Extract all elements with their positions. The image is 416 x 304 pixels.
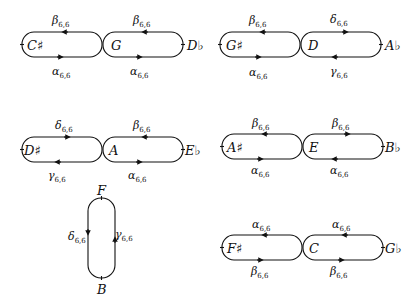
edge-label: δ6,6 bbox=[55, 120, 73, 134]
edge-label: β6,6 bbox=[252, 118, 270, 132]
edge-label: α6,6 bbox=[252, 219, 271, 233]
edge-label: γ6,6 bbox=[330, 66, 348, 80]
edge-label: β6,6 bbox=[330, 266, 348, 280]
node-right: G♭ bbox=[385, 242, 402, 255]
loop-vertical-d5 bbox=[88, 196, 115, 280]
node-right: B♭ bbox=[385, 141, 401, 154]
edge-label: α6,6 bbox=[251, 165, 270, 179]
node-center: D bbox=[308, 39, 318, 52]
node-bottom: B bbox=[97, 283, 107, 296]
node-left: D♯ bbox=[24, 144, 41, 157]
edge-label: β6,6 bbox=[52, 15, 70, 29]
edge-label: α6,6 bbox=[52, 66, 71, 80]
loop-pair-d4 bbox=[220, 134, 385, 159]
node-right: D♭ bbox=[187, 39, 204, 52]
node-left: A♯ bbox=[227, 141, 243, 154]
loop-pair-d3 bbox=[20, 137, 185, 162]
edge-label: δ6,6 bbox=[68, 231, 86, 245]
node-center: E bbox=[309, 141, 319, 154]
node-left: G♯ bbox=[226, 39, 243, 52]
edge-label: β6,6 bbox=[249, 15, 267, 29]
node-center: G bbox=[111, 39, 121, 52]
node-center: C bbox=[309, 242, 319, 255]
edge-label: α6,6 bbox=[332, 219, 351, 233]
node-top: F bbox=[97, 184, 106, 197]
edge-label: β6,6 bbox=[133, 15, 151, 29]
edge-label: β6,6 bbox=[251, 266, 269, 280]
edge-label: δ6,6 bbox=[330, 14, 348, 28]
loop-pair-d2 bbox=[218, 32, 383, 57]
node-right: A♭ bbox=[385, 39, 401, 52]
edge-label: α6,6 bbox=[330, 165, 349, 179]
edge-label: γ6,6 bbox=[48, 170, 66, 184]
node-center: A bbox=[109, 144, 118, 157]
edge-label: β6,6 bbox=[133, 120, 151, 134]
node-right: E♭ bbox=[185, 144, 201, 157]
edge-label: α6,6 bbox=[249, 67, 268, 81]
edge-label: γ6,6 bbox=[115, 229, 133, 243]
diagram-canvas bbox=[0, 0, 416, 304]
edge-label: β6,6 bbox=[332, 118, 350, 132]
loop-pair-d1 bbox=[20, 32, 185, 57]
loop-pair-d6 bbox=[220, 235, 385, 260]
edge-label: α6,6 bbox=[128, 170, 147, 184]
node-left: F♯ bbox=[227, 242, 242, 255]
node-left: C♯ bbox=[27, 39, 43, 52]
edge-label: α6,6 bbox=[130, 66, 149, 80]
